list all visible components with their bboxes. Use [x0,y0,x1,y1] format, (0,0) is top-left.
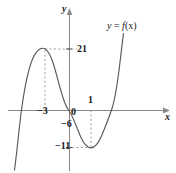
function-label: y = f(x) [107,21,137,31]
function-graph-figure: y x 21 −3 0 1 −6 −11 y = f(x) [0,0,176,173]
value-label-neg11: −11 [55,141,70,151]
y-axis-arrow [67,8,73,15]
plot-canvas [0,0,176,173]
value-label-21: 21 [77,44,87,54]
x-axis [8,108,170,114]
x-axis-label: x [165,112,170,122]
value-label-1: 1 [88,95,93,105]
origin-label: 0 [71,107,76,117]
guide-lines [45,49,91,148]
value-label-neg3: −3 [37,106,48,116]
function-label-arg: (x) [125,20,137,31]
function-label-equals: = [111,20,122,31]
value-label-neg6: −6 [61,119,72,129]
y-axis-label: y [62,4,66,14]
